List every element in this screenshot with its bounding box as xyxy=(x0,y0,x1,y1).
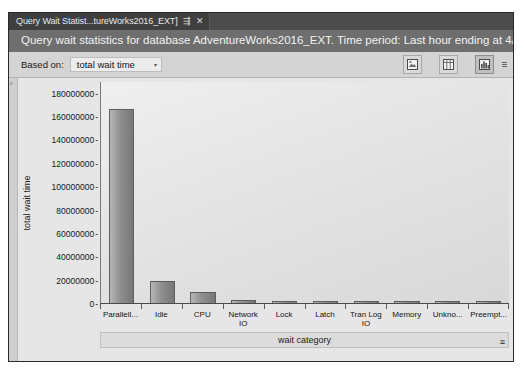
bar[interactable] xyxy=(354,301,379,303)
y-axis-tick: 60000000- xyxy=(56,229,98,239)
bar-slot xyxy=(264,82,305,303)
plot-wrapper: 180000000-160000000-140000000-120000000-… xyxy=(36,82,509,359)
resize-grip-icon[interactable]: ≡ xyxy=(500,337,505,347)
bar-slot xyxy=(387,82,428,303)
y-axis-tick: 180000000- xyxy=(52,89,98,99)
report-body: › total wait time 180000000-160000000-14… xyxy=(9,78,513,361)
bar[interactable] xyxy=(476,301,501,303)
collapse-icon[interactable]: › xyxy=(10,80,12,87)
x-axis-tick-label: Unkno... xyxy=(427,310,468,330)
bar[interactable] xyxy=(313,301,338,303)
report-title-bar: Query wait statistics for database Adven… xyxy=(9,30,513,52)
y-axis-tick: 100000000- xyxy=(52,182,98,192)
based-on-label: Based on: xyxy=(21,59,64,70)
bar-slot xyxy=(101,82,142,303)
tab-query-wait-statistics[interactable]: Query Wait Statist...tureWorks2016_EXT] … xyxy=(9,13,210,30)
x-axis-labels: Parallell...IdleCPUNetwork IOLockLatchTr… xyxy=(100,310,509,330)
y-axis-tick: 20000000- xyxy=(56,276,98,286)
bar-slot xyxy=(427,82,468,303)
based-on-select[interactable]: total wait time ▾ xyxy=(70,57,162,72)
tab-strip-empty xyxy=(210,13,513,30)
y-axis-title: total wait time xyxy=(20,78,34,327)
y-axis-labels: 180000000-160000000-140000000-120000000-… xyxy=(36,82,98,304)
table-view-button[interactable] xyxy=(439,55,458,74)
y-axis-tick: 0- xyxy=(89,299,98,309)
bar[interactable] xyxy=(190,292,215,303)
x-axis-tick-label: Idle xyxy=(141,310,182,330)
y-axis-tick: 80000000- xyxy=(56,206,98,216)
bar[interactable] xyxy=(109,109,134,303)
left-rail: › xyxy=(9,78,18,361)
y-axis-tick: 160000000- xyxy=(52,112,98,122)
close-icon[interactable]: ✕ xyxy=(196,17,204,26)
export-image-icon xyxy=(407,59,418,70)
x-axis-tick-label: Latch xyxy=(305,310,346,330)
tab-strip: Query Wait Statist...tureWorks2016_EXT] … xyxy=(9,13,513,30)
bar[interactable] xyxy=(272,301,297,303)
x-axis-tick-label: CPU xyxy=(182,310,223,330)
bar-slot xyxy=(468,82,509,303)
bar[interactable] xyxy=(231,300,256,303)
y-axis-tick: 40000000- xyxy=(56,252,98,262)
plot-area xyxy=(100,82,509,304)
x-axis-tick-label: Memory xyxy=(386,310,427,330)
y-axis-tick: 140000000- xyxy=(52,135,98,145)
export-image-button[interactable] xyxy=(403,55,422,74)
bar-slot xyxy=(346,82,387,303)
bar-chart-icon xyxy=(479,59,490,70)
bar-slot xyxy=(183,82,224,303)
page-title: Query wait statistics for database Adven… xyxy=(21,35,513,47)
y-axis-tick: 120000000- xyxy=(52,159,98,169)
bar-slot xyxy=(305,82,346,303)
bar-slot xyxy=(223,82,264,303)
pin-icon[interactable]: ⇶ xyxy=(183,17,191,26)
report-toolbar: Based on: total wait time ▾ xyxy=(9,52,513,78)
bar-slot xyxy=(142,82,183,303)
chevron-down-icon: ▾ xyxy=(154,61,157,68)
x-axis-tick-label: Tran Log IO xyxy=(345,310,386,330)
bar[interactable] xyxy=(150,281,175,303)
report-window: Query Wait Statist...tureWorks2016_EXT] … xyxy=(8,12,514,362)
tab-label: Query Wait Statist...tureWorks2016_EXT] xyxy=(16,17,178,26)
chart-area: total wait time 180000000-160000000-1400… xyxy=(18,78,513,361)
bar[interactable] xyxy=(435,301,460,303)
bar-series xyxy=(101,82,509,303)
x-axis-tick-label: Parallell... xyxy=(100,310,141,330)
table-grid-icon xyxy=(443,59,454,70)
x-axis-tick-label: Preempt... xyxy=(468,310,509,330)
x-axis-tick-label: Network IO xyxy=(223,310,264,330)
toolbar-overflow-button[interactable] xyxy=(500,55,509,74)
based-on-value: total wait time xyxy=(77,59,135,70)
chart-view-button[interactable] xyxy=(475,55,494,74)
x-axis-title: wait category ≡ xyxy=(100,332,509,348)
bar[interactable] xyxy=(394,301,419,303)
x-axis-tick-label: Lock xyxy=(264,310,305,330)
